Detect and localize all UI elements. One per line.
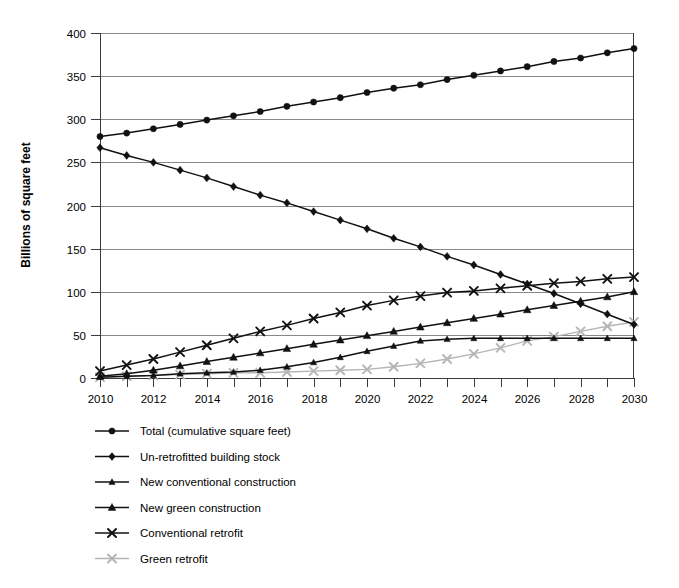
x-tick-label: 2026 bbox=[515, 393, 541, 405]
x-tick-label: 2014 bbox=[195, 393, 221, 405]
legend-label: Total (cumulative square feet) bbox=[140, 425, 291, 437]
legend-label: New conventional construction bbox=[140, 476, 296, 488]
data-point-circle bbox=[444, 76, 450, 82]
data-point-circle bbox=[471, 72, 477, 78]
data-point-circle bbox=[551, 58, 557, 64]
legend-label: Conventional retrofit bbox=[140, 527, 244, 539]
data-point-circle bbox=[337, 95, 343, 101]
legend-label: New green construction bbox=[140, 502, 261, 514]
y-tick-label: 350 bbox=[67, 71, 86, 83]
y-tick-label: 0 bbox=[80, 373, 86, 385]
data-point-circle bbox=[311, 99, 317, 105]
data-point-circle bbox=[578, 55, 584, 61]
x-tick-label: 2024 bbox=[462, 393, 488, 405]
data-point-circle bbox=[417, 82, 423, 88]
x-tick-label: 2020 bbox=[355, 393, 381, 405]
y-tick-label: 200 bbox=[67, 201, 86, 213]
data-point-circle bbox=[204, 117, 210, 123]
y-tick-label: 100 bbox=[67, 287, 86, 299]
data-point-circle bbox=[631, 45, 637, 51]
x-tick-label: 2028 bbox=[569, 393, 595, 405]
y-tick-label: 50 bbox=[73, 330, 86, 342]
data-point-circle bbox=[604, 50, 610, 56]
data-point-circle bbox=[124, 130, 130, 136]
chart-background bbox=[0, 0, 679, 588]
y-axis-label: Billions of square feet bbox=[19, 142, 33, 267]
y-tick-label: 250 bbox=[67, 157, 86, 169]
data-point-circle bbox=[364, 89, 370, 95]
line-chart: 050100150200250300350400 201020122014201… bbox=[0, 0, 679, 588]
data-point-circle bbox=[284, 103, 290, 109]
x-axis-ticks bbox=[101, 378, 635, 387]
data-point-circle bbox=[497, 68, 503, 74]
data-point-circle bbox=[391, 85, 397, 91]
x-tick-label: 2030 bbox=[622, 393, 648, 405]
x-tick-label: 2018 bbox=[302, 393, 328, 405]
data-point-circle bbox=[257, 108, 263, 114]
data-point-circle bbox=[524, 64, 530, 70]
data-point-circle bbox=[97, 133, 103, 139]
data-point-circle bbox=[150, 126, 156, 132]
x-tick-label: 2012 bbox=[141, 393, 167, 405]
x-tick-label: 2016 bbox=[248, 393, 274, 405]
y-tick-label: 400 bbox=[67, 28, 86, 40]
legend-label: Green retrofit bbox=[140, 553, 209, 565]
y-tick-label: 300 bbox=[67, 114, 86, 126]
legend-label: Un-retrofitted building stock bbox=[140, 451, 280, 463]
y-tick-label: 150 bbox=[67, 244, 86, 256]
data-point-circle bbox=[230, 113, 236, 119]
data-point-circle bbox=[177, 121, 183, 127]
x-tick-label: 2010 bbox=[88, 393, 114, 405]
x-tick-label: 2022 bbox=[408, 393, 434, 405]
chart-canvas: 050100150200250300350400 201020122014201… bbox=[0, 0, 679, 588]
data-point-circle bbox=[109, 428, 115, 434]
